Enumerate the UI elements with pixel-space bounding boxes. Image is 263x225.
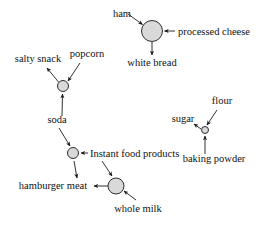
edge-flour-to-hub	[207, 110, 217, 125]
edge-popcorn-to-hub	[68, 63, 80, 81]
hub-node-white-bread[interactable]	[142, 21, 163, 42]
label-hamburger-meat: hamburger meat	[19, 180, 87, 191]
label-sugar: sugar	[172, 113, 195, 124]
label-soda: soda	[47, 114, 67, 125]
hub-node-salty-snack[interactable]	[58, 81, 69, 92]
hub-node-hamburger-meat[interactable]	[108, 178, 124, 194]
label-flour: flour	[212, 95, 233, 106]
label-whole-milk: whole milk	[114, 203, 162, 214]
graph-canvas: ham processed cheese white bread salty s…	[0, 0, 263, 225]
label-processed-cheese: processed cheese	[178, 26, 250, 37]
label-ham: ham	[113, 8, 131, 19]
cluster-white-bread: ham processed cheese white bread	[113, 8, 250, 68]
edge-soda-to-instant-hub	[59, 128, 70, 146]
association-graph-diagram: ham processed cheese white bread salty s…	[0, 0, 263, 225]
hub-node-sugar[interactable]	[202, 127, 209, 134]
label-white-bread: white bread	[127, 57, 177, 68]
edge-instant-food-to-milk-hub	[102, 161, 112, 176]
label-salty-snack: salty snack	[15, 53, 62, 64]
hub-node-instant-food[interactable]	[68, 148, 79, 159]
label-baking-powder: baking powder	[183, 153, 246, 164]
edge-hub-to-salty-snack	[47, 68, 59, 82]
cluster-hamburger-meat: hamburger meat whole milk	[19, 161, 163, 214]
label-popcorn: popcorn	[70, 48, 105, 59]
edge-whole-milk-to-hub	[124, 191, 136, 200]
cluster-salty-snack: salty snack popcorn soda	[15, 48, 105, 125]
edge-instant-hub-to-hamburger	[74, 161, 77, 178]
label-instant-food-products: Instant food products	[90, 148, 179, 159]
cluster-sugar: flour sugar baking powder	[172, 95, 246, 164]
cluster-instant-food-products: Instant food products	[59, 128, 179, 178]
edge-hub-to-sugar	[194, 124, 201, 129]
edge-soda-to-hub	[62, 94, 63, 116]
